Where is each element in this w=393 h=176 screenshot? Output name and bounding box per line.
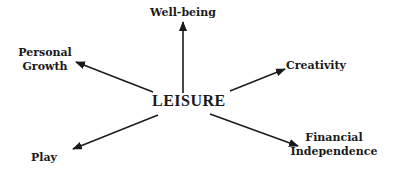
arrow-to-play bbox=[73, 115, 158, 149]
arrow-to-financial-independence bbox=[210, 114, 298, 146]
center-label-leisure: LEISURE bbox=[152, 92, 226, 110]
arrow-to-personal-growth bbox=[76, 62, 153, 92]
node-financial-independence-line2: Independence bbox=[290, 145, 378, 159]
node-personal-growth-line1: Personal bbox=[16, 46, 74, 60]
node-play: Play bbox=[31, 151, 57, 165]
node-creativity: Creativity bbox=[286, 59, 346, 73]
leisure-diagram: LEISURE Well-being Personal Growth Creat… bbox=[0, 0, 393, 176]
arrow-to-creativity bbox=[230, 69, 285, 91]
node-financial-independence: Financial Independence bbox=[290, 131, 378, 159]
node-personal-growth-line2: Growth bbox=[16, 60, 74, 74]
node-personal-growth: Personal Growth bbox=[16, 46, 74, 74]
node-financial-independence-line1: Financial bbox=[290, 131, 378, 145]
node-well-being: Well-being bbox=[150, 6, 216, 20]
